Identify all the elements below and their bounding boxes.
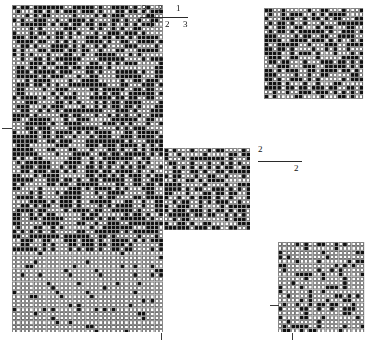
top-axis-scale-below-2: 3 <box>183 20 188 29</box>
main-grid-left-tick <box>2 128 12 129</box>
top-axis-scale-above-2: 1 <box>176 4 181 13</box>
middle-axis-scale-above-0: 2 <box>258 145 263 154</box>
top-right-pattern-grid <box>264 8 365 100</box>
bottom-right-pattern-grid <box>278 242 365 332</box>
bottom-right-left-tick <box>270 305 279 306</box>
main-pattern-grid <box>12 5 163 332</box>
top-axis-scale-above-0: 3 <box>142 4 147 13</box>
middle-axis-scale: 22 <box>258 145 302 171</box>
top-axis-scale-below-1: 2 <box>165 20 170 29</box>
top-axis-scale-below-0: 1 <box>149 20 154 29</box>
top-axis-scale-above-1: 2 <box>158 4 163 13</box>
top-axis-scale-rule <box>140 17 188 18</box>
middle-pattern-grid <box>164 148 250 232</box>
main-pattern-grid-canvas <box>12 5 163 332</box>
top-axis-scale: 321123 <box>140 4 188 30</box>
bottom-right-bottom-tick <box>292 333 293 340</box>
figure-root: 32112322 <box>0 0 370 340</box>
top-right-pattern-grid-canvas <box>264 8 365 100</box>
main-grid-bottom-tick <box>161 333 162 340</box>
middle-axis-scale-below-0: 2 <box>294 164 299 173</box>
bottom-right-pattern-grid-canvas <box>278 242 365 332</box>
middle-pattern-grid-canvas <box>164 148 250 232</box>
middle-axis-scale-rule <box>258 161 302 162</box>
